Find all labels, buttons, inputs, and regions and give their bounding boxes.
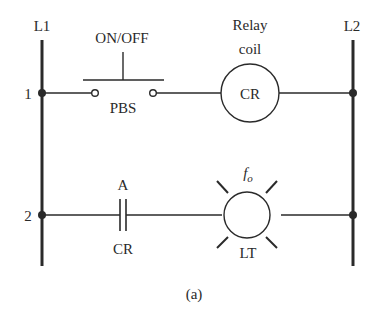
rung-number-1: 1 <box>24 87 32 102</box>
relay-label-line2: coil <box>239 42 262 57</box>
node-dot <box>349 211 357 219</box>
contact-top-label: A <box>118 178 129 193</box>
rung-number-2: 2 <box>24 209 32 224</box>
node-dot <box>349 89 357 97</box>
lamp-top-label: fo <box>243 166 253 184</box>
lamp-bottom-label: LT <box>240 246 257 261</box>
rail-label-left: L1 <box>34 19 51 34</box>
node-dot <box>38 89 46 97</box>
relay-coil-label: CR <box>240 87 260 102</box>
contact-bottom-label: CR <box>113 242 133 257</box>
pbs-terminal-right <box>150 90 157 97</box>
lamp-icon <box>224 192 270 238</box>
pbs-top-label: ON/OFF <box>95 31 148 46</box>
ladder-diagram <box>0 0 386 314</box>
rail-label-right: L2 <box>344 19 361 34</box>
pbs-bottom-label: PBS <box>110 101 137 116</box>
node-dot <box>38 211 46 219</box>
figure-caption: (a) <box>186 287 203 302</box>
pbs-terminal-left <box>92 90 99 97</box>
relay-label-line1: Relay <box>233 18 268 33</box>
